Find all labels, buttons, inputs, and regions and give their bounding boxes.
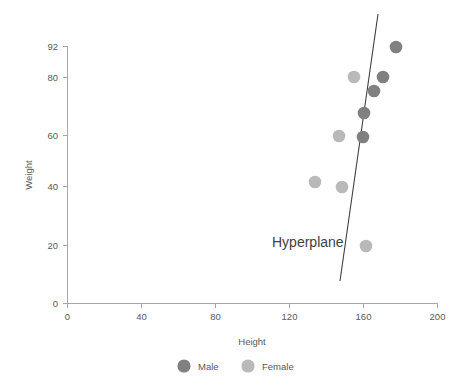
x-axis-ticks xyxy=(68,304,438,309)
x-tick-label: 80 xyxy=(210,311,221,322)
data-point-female[interactable] xyxy=(336,181,349,194)
y-tick-label: 40 xyxy=(47,181,58,192)
hyperplane-label: Hyperplane xyxy=(272,234,344,250)
data-point-male[interactable] xyxy=(368,85,381,98)
hyperplane-line xyxy=(340,14,378,281)
x-tick-label: 120 xyxy=(282,311,298,322)
y-axis-ticks xyxy=(63,47,68,304)
data-point-male[interactable] xyxy=(377,71,390,84)
series-female-points xyxy=(309,71,373,253)
y-axis-title: Weight xyxy=(23,160,34,190)
y-tick-label: 60 xyxy=(47,130,58,141)
legend-label-female: Female xyxy=(262,361,294,372)
x-tick-label: 200 xyxy=(430,311,446,322)
data-point-male[interactable] xyxy=(358,107,371,120)
y-tick-label: 0 xyxy=(53,298,58,309)
x-tick-label: 0 xyxy=(65,311,70,322)
y-tick-label: 80 xyxy=(47,72,58,83)
legend-label-male: Male xyxy=(198,361,219,372)
chart-canvas: 92 80 60 40 20 0 0 40 80 120 160 200 Hei… xyxy=(0,0,466,385)
x-axis-tick-labels: 0 40 80 120 160 200 xyxy=(65,311,446,322)
series-male-points xyxy=(357,41,403,144)
data-point-male[interactable] xyxy=(390,41,403,54)
data-point-male[interactable] xyxy=(357,131,370,144)
y-axis-tick-labels: 92 80 60 40 20 0 xyxy=(47,41,58,309)
data-point-female[interactable] xyxy=(360,240,373,253)
data-point-female[interactable] xyxy=(309,176,322,189)
chart-legend: Male Female xyxy=(177,359,293,372)
scatter-chart-figure: 92 80 60 40 20 0 0 40 80 120 160 200 Hei… xyxy=(0,0,466,385)
legend-swatch-male[interactable] xyxy=(177,359,190,372)
y-tick-label: 20 xyxy=(47,240,58,251)
x-tick-label: 40 xyxy=(136,311,147,322)
x-axis-title: Height xyxy=(238,336,266,347)
x-tick-label: 160 xyxy=(356,311,372,322)
y-tick-label: 92 xyxy=(47,41,58,52)
data-point-female[interactable] xyxy=(333,130,346,143)
legend-swatch-female[interactable] xyxy=(241,359,254,372)
data-point-female[interactable] xyxy=(348,71,361,84)
